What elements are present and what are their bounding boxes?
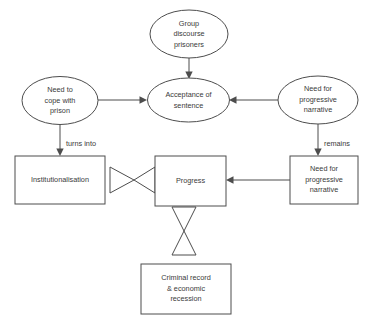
connector-hourglass-progress-criminal-record <box>172 207 196 255</box>
edge-cope-to-acceptance <box>98 96 147 103</box>
edge-narrative-box-to-progress <box>226 176 290 183</box>
node-label-criminal-record-line-2: & economic <box>167 284 205 293</box>
node-label-criminal-record-line-1: Criminal record <box>161 273 210 282</box>
node-acceptance-of-sentence[interactable]: Acceptance of sentence <box>148 78 230 122</box>
node-label-narrative-box-line-1: Need for <box>310 164 339 173</box>
node-label-need-to-cope-with-prison-line-2: cope with <box>45 96 76 105</box>
node-need-to-cope-with-prison[interactable]: Need to cope with prison <box>22 77 98 125</box>
node-label-criminal-record-line-3: recession <box>170 294 201 303</box>
node-label-group-discourse-prisoners-line-3: prisoners <box>174 40 204 49</box>
flow-diagram: turns into remains Group discourse priso… <box>0 0 372 329</box>
node-progress[interactable]: Progress <box>155 156 226 206</box>
node-label-need-to-cope-with-prison-line-1: Need to <box>47 85 73 94</box>
node-label-institutionalisation: Institutionalisation <box>31 175 89 184</box>
diagram-canvas: turns into remains Group discourse priso… <box>0 0 372 329</box>
node-label-narrative-box-line-3: narrative <box>310 185 338 194</box>
node-need-for-progressive-narrative-ellipse[interactable]: Need for progressive narrative <box>278 76 358 124</box>
node-criminal-record-economic-recession[interactable]: Criminal record & economic recession <box>141 264 231 314</box>
edge-cope-to-institutionalisation <box>56 125 63 156</box>
edge-label-remains: remains <box>324 139 350 148</box>
node-institutionalisation[interactable]: Institutionalisation <box>15 156 105 204</box>
node-label-narrative-ellipse-line-2: progressive <box>299 95 337 104</box>
node-label-need-to-cope-with-prison-line-3: prison <box>50 106 70 115</box>
node-label-acceptance-of-sentence-line-2: sentence <box>174 101 204 110</box>
connector-bowtie-institutionalisation-progress <box>110 167 155 193</box>
edge-group-discourse-to-acceptance <box>185 58 192 79</box>
edge-narrative-ellipse-to-narrative-box <box>314 124 321 156</box>
node-label-group-discourse-prisoners-line-2: discourse <box>173 29 204 38</box>
node-label-acceptance-of-sentence-line-1: Acceptance of <box>165 90 212 99</box>
edge-narrative-ellipse-to-acceptance <box>229 96 278 103</box>
node-label-progress: Progress <box>176 176 206 185</box>
node-label-narrative-ellipse-line-1: Need for <box>304 84 333 93</box>
edge-label-turns-into: turns into <box>66 139 96 148</box>
node-need-for-progressive-narrative-box[interactable]: Need for progressive narrative <box>290 156 358 204</box>
node-label-narrative-ellipse-line-3: narrative <box>304 105 332 114</box>
node-label-group-discourse-prisoners-line-1: Group <box>179 19 199 28</box>
node-group-discourse-prisoners[interactable]: Group discourse prisoners <box>150 10 228 58</box>
node-label-narrative-box-line-2: progressive <box>305 175 343 184</box>
